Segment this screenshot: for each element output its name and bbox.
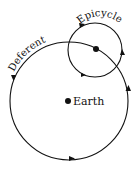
- epicycle-center-dot: [93, 46, 99, 52]
- earth-label: Earth: [73, 95, 104, 108]
- deferent-label: Deferent: [6, 34, 47, 73]
- epicycle-label: Epicycle: [75, 7, 125, 26]
- earth-dot: [65, 98, 71, 104]
- arrow-icon: [81, 73, 86, 77]
- epicycle-diagram: Deferent Epicycle Earth: [0, 0, 135, 172]
